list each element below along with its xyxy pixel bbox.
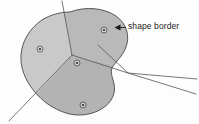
figure-container: shape border [0,0,199,124]
site-marker-upper-right [101,27,107,33]
site-marker-bottom [80,102,86,108]
site-marker-center [74,60,80,66]
site-marker-left [37,46,43,52]
region-fill-group [0,0,199,124]
shape-border-label: shape border [128,21,179,31]
shape-partition-diagram [0,0,199,124]
